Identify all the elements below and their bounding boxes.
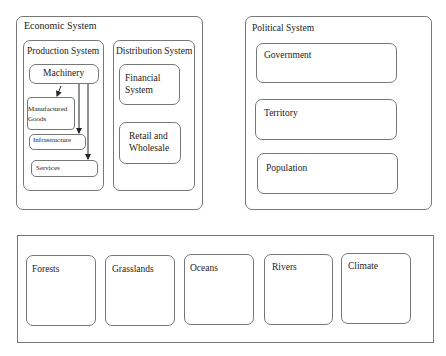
government-label: Government: [264, 50, 312, 60]
retail-wholesale-label-2: Wholesale: [129, 143, 169, 153]
rivers-label: Rivers: [272, 262, 297, 272]
forests-label: Forests: [32, 264, 59, 274]
oceans-label: Oceans: [190, 263, 218, 273]
territory-label: Territory: [264, 108, 298, 118]
grasslands-label: Grasslands: [112, 264, 154, 274]
financial-system-label-2: System: [125, 85, 153, 95]
population-label: Population: [266, 163, 307, 173]
retail-wholesale-label-1: Retail and: [129, 131, 168, 141]
distribution-system-box: [113, 40, 195, 191]
climate-label: Climate: [348, 261, 378, 271]
population-node: [257, 153, 398, 194]
financial-system-label-1: Financial: [125, 73, 160, 83]
distribution-system-title: Distribution System: [116, 46, 192, 56]
territory-node: [255, 99, 397, 140]
government-node: [256, 43, 397, 83]
political-system-title: Political System: [252, 23, 314, 33]
